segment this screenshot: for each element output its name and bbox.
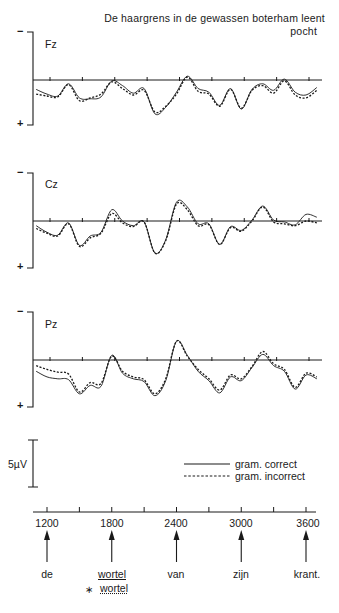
channel-baselines: [33, 77, 322, 361]
arrow-head-icon: [303, 530, 309, 540]
cz-amplitude-bracket: [27, 173, 33, 268]
arrow-head-icon: [238, 530, 244, 540]
waveform-pz-correct: [36, 340, 317, 395]
time-axis-ticks: [47, 507, 306, 512]
word-onset-arrows: [44, 530, 309, 562]
erp-waveforms: [36, 76, 317, 396]
arrow-head-icon: [174, 530, 180, 540]
erp-figure: De haargrens in de gewassen boterham lee…: [0, 0, 339, 613]
arrow-head-icon: [44, 530, 50, 540]
waveform-fz-incorrect: [36, 77, 317, 113]
waveform-cz-incorrect: [36, 202, 317, 253]
waveform-pz-incorrect: [36, 341, 317, 394]
pz-amplitude-bracket: [27, 312, 33, 407]
waveform-fz-correct: [36, 76, 317, 115]
scale-bar: [28, 440, 38, 487]
waveform-plot-area: [0, 0, 339, 613]
arrow-head-icon: [109, 530, 115, 540]
fz-amplitude-bracket: [27, 32, 33, 125]
waveform-cz-correct: [36, 200, 317, 254]
